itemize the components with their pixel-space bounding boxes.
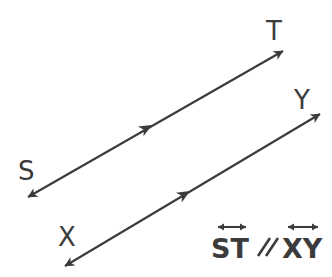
point-label-X: X [58, 222, 76, 252]
st-line-notation-arrow-icon [218, 224, 246, 231]
line-ST [28, 51, 283, 197]
xy-line-notation-arrow-icon [288, 224, 318, 231]
parallel-symbol-icon [258, 238, 278, 256]
notation-segment-xy: XY [282, 233, 323, 264]
diagram-canvas: S T X Y ST XY [0, 0, 332, 277]
notation-segment-st: ST [211, 233, 249, 264]
line-XY-direction-arrow-icon [176, 186, 193, 202]
point-label-S: S [18, 156, 35, 186]
point-label-Y: Y [293, 85, 310, 115]
line-ST-direction-arrow-icon [138, 120, 155, 136]
line-ST-group [28, 51, 283, 197]
parallel-notation: ST XY [211, 224, 323, 264]
point-label-T: T [265, 16, 282, 46]
geometry-diagram: S T X Y ST XY [0, 0, 332, 277]
